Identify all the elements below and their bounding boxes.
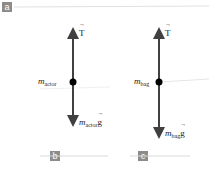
faint-line-bag: [160, 79, 209, 82]
free-body-diagrams: [0, 0, 209, 169]
label-weight-actor: mactorg: [79, 117, 102, 128]
label-mass-actor: mactor: [38, 76, 57, 87]
label-tension-actor: T: [79, 28, 85, 38]
label-tension-bag: T: [165, 28, 171, 38]
divider-a: [14, 6, 209, 7]
vector-T: T: [79, 28, 85, 38]
vector-T: T: [165, 28, 171, 38]
label-weight-bag: mbagg: [165, 128, 185, 139]
mass-dot-bag: [156, 79, 163, 86]
faint-line-actor: [40, 87, 110, 89]
label-mass-bag: mbag: [134, 76, 149, 87]
mass-dot-actor: [70, 79, 77, 86]
